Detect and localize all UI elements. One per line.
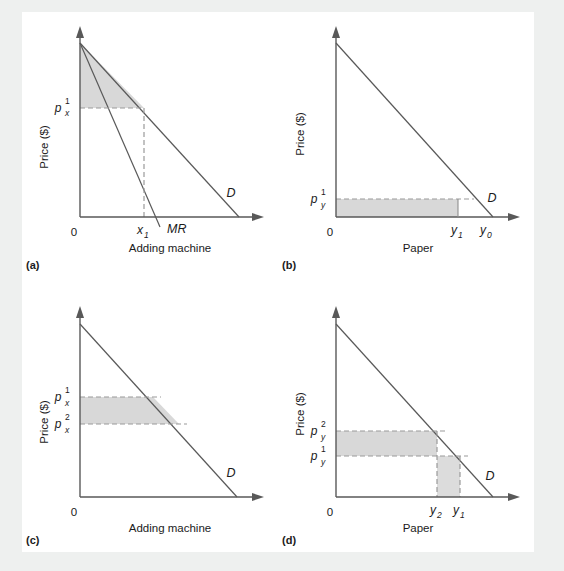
panel-d-price-label-2: p y 2 xyxy=(310,419,326,442)
panel-c-chart: Price ($) Adding machine 0 p x 1 p x 2 xyxy=(22,284,278,552)
panel-d-quantity-label-y2: y 2 xyxy=(429,503,442,520)
panel-c-origin-label: 0 xyxy=(71,506,77,518)
panel-d-price-label-2-sup: 2 xyxy=(321,419,326,429)
panel-a-price-label: p x 1 xyxy=(54,96,70,118)
x-axis-arrow-icon xyxy=(252,213,264,221)
panel-d-price-label-1-sup: 1 xyxy=(321,444,326,454)
panel-c-price-label-1-sup: 1 xyxy=(65,385,70,395)
demand-curve xyxy=(336,324,493,497)
panel-d-quantity-label-y2-sub: 2 xyxy=(436,510,442,520)
panel-a-quantity-label-sub: 1 xyxy=(144,230,149,240)
panel-d-quantity-label-y1: y 1 xyxy=(452,503,465,520)
panel-b-origin-label: 0 xyxy=(327,226,333,238)
panel-d-caption: (d) xyxy=(282,534,296,546)
panel-c-caption: (c) xyxy=(26,534,39,546)
panel-d-quantity-label-y1-sub: 1 xyxy=(460,510,465,520)
panel-a-y-axis-title: Price ($) xyxy=(38,125,50,169)
panel-b-demand-curve-label: D xyxy=(487,191,496,205)
panel-d-chart: Price ($) Paper 0 p y 2 p y 1 xyxy=(278,284,534,552)
panel-a-price-label-sub: x xyxy=(64,108,70,118)
panel-a-caption: (a) xyxy=(26,259,39,271)
y-axis-arrow-icon xyxy=(332,26,340,38)
y-axis-arrow-icon xyxy=(76,306,84,318)
panel-d-demand-curve-label: D xyxy=(485,469,494,483)
panel-c-price-label-2-sub: x xyxy=(64,425,70,435)
panel-b: Price ($) Paper 0 p y 1 y 1 y xyxy=(278,12,534,282)
panel-c-price-label-1: p x 1 xyxy=(54,385,70,408)
panel-a-chart: Price ($) Adding machine 0 p x 1 x 1 MR xyxy=(22,12,278,282)
figure-frame: Price ($) Adding machine 0 p x 1 x 1 MR xyxy=(0,0,564,571)
panel-b-quantity-label-y1: y 1 xyxy=(450,223,463,240)
panel-b-chart: Price ($) Paper 0 p y 1 y 1 y xyxy=(278,12,534,282)
panel-b-y-axis-title: Price ($) xyxy=(294,112,306,156)
panel-b-price-label: p y 1 xyxy=(310,187,326,210)
figure-content-panel: Price ($) Adding machine 0 p x 1 x 1 MR xyxy=(22,12,534,552)
y-axis-arrow-icon xyxy=(332,306,340,318)
panel-d: Price ($) Paper 0 p y 2 p y 1 xyxy=(278,284,534,552)
panel-a-quantity-label-base: x xyxy=(136,223,144,237)
panel-b-caption: (b) xyxy=(282,259,296,271)
demand-curve xyxy=(336,43,493,217)
panel-c-y-axis-title: Price ($) xyxy=(38,400,50,444)
panel-d-price-label-1: p y 1 xyxy=(310,444,326,467)
panel-b-price-label-sup: 1 xyxy=(321,187,326,197)
shaded-region-price-band xyxy=(80,397,179,424)
panel-d-origin-label: 0 xyxy=(327,506,333,518)
panel-a-price-label-base: p xyxy=(54,101,62,115)
marginal-revenue-curve xyxy=(80,43,160,227)
x-axis-arrow-icon xyxy=(508,213,520,221)
panel-d-x-axis-title: Paper xyxy=(403,522,434,534)
shaded-region-revenue-rectangle xyxy=(336,199,458,217)
panel-a-mr-curve-label: MR xyxy=(167,222,186,236)
panel-d-price-label-2-sub: y xyxy=(320,432,326,442)
y-axis-arrow-icon xyxy=(76,26,84,38)
shaded-region-lower-rectangle xyxy=(437,456,460,497)
panel-a-demand-curve-label: D xyxy=(226,186,235,200)
panel-a: Price ($) Adding machine 0 p x 1 x 1 MR xyxy=(22,12,278,282)
panel-c-price-label-1-base: p xyxy=(54,390,62,404)
x-axis-arrow-icon xyxy=(508,493,520,501)
panel-c-x-axis-title: Adding machine xyxy=(129,522,211,534)
panel-b-quantity-label-y1-sub: 1 xyxy=(458,230,463,240)
panel-a-quantity-label: x 1 xyxy=(136,223,149,240)
panel-c-demand-curve-label: D xyxy=(226,466,235,480)
panel-b-x-axis-title: Paper xyxy=(403,242,434,254)
panel-d-price-label-1-base: p xyxy=(310,449,318,463)
panel-d-y-axis-title: Price ($) xyxy=(294,392,306,436)
panel-c-price-label-1-sub: x xyxy=(64,398,70,408)
panel-a-price-label-sup: 1 xyxy=(65,96,70,106)
panel-b-quantity-label-y1-base: y xyxy=(450,223,458,237)
panel-a-x-axis-title: Adding machine xyxy=(129,242,211,254)
panel-c-price-label-2-base: p xyxy=(54,417,62,431)
panel-d-price-label-2-base: p xyxy=(310,424,318,438)
panel-b-price-label-sub: y xyxy=(320,200,326,210)
panel-c-price-label-2-sup: 2 xyxy=(65,412,70,422)
panel-d-quantity-label-y1-base: y xyxy=(452,503,460,517)
panel-b-quantity-label-y0-base: y xyxy=(479,223,487,237)
panel-d-quantity-label-y2-base: y xyxy=(429,503,437,517)
panel-b-quantity-label-y0-sub: 0 xyxy=(487,230,492,240)
panel-a-origin-label: 0 xyxy=(71,226,77,238)
panel-d-price-label-1-sub: y xyxy=(320,457,326,467)
panel-b-price-label-base: p xyxy=(310,192,318,206)
shaded-region-upper-band xyxy=(336,431,437,456)
panel-b-quantity-label-y0: y 0 xyxy=(479,223,492,240)
x-axis-arrow-icon xyxy=(252,493,264,501)
panel-c-price-label-2: p x 2 xyxy=(54,412,70,435)
panel-c: Price ($) Adding machine 0 p x 1 p x 2 xyxy=(22,284,278,552)
demand-curve xyxy=(80,43,239,217)
